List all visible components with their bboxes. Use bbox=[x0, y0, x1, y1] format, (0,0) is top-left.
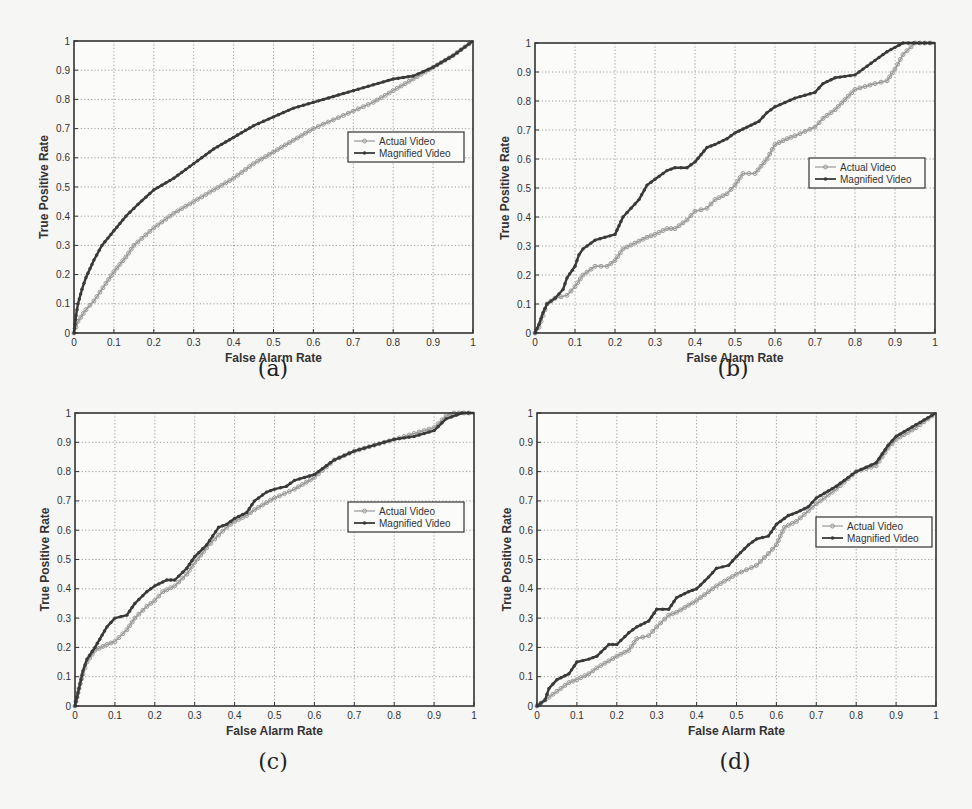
x-tick-label: 0 bbox=[534, 710, 540, 721]
legend-entry-actual-video: Actual Video bbox=[847, 521, 903, 532]
y-tick-label: 1 bbox=[527, 408, 533, 419]
y-tick-label: 0.6 bbox=[519, 525, 533, 536]
y-tick-label: 0.5 bbox=[519, 554, 533, 565]
y-tick-label: 0.9 bbox=[519, 437, 533, 448]
y-axis-label: True Positive Rate bbox=[500, 507, 514, 611]
x-tick-label: 0.7 bbox=[809, 710, 823, 721]
x-tick-label: 0.9 bbox=[889, 710, 903, 721]
x-tick-label: 0.6 bbox=[769, 710, 783, 721]
chart-plot-d: 00.10.20.30.40.50.60.70.80.9100.10.20.30… bbox=[0, 0, 972, 809]
y-tick-label: 0.3 bbox=[519, 613, 533, 624]
x-tick-label: 1 bbox=[933, 710, 939, 721]
x-tick-label: 0.5 bbox=[730, 710, 744, 721]
y-tick-label: 0.7 bbox=[519, 495, 533, 506]
y-tick-label: 0.2 bbox=[519, 642, 533, 653]
x-tick-label: 0.3 bbox=[650, 710, 664, 721]
x-tick-label: 0.2 bbox=[610, 710, 624, 721]
y-tick-label: 0.1 bbox=[519, 671, 533, 682]
x-tick-label: 0.1 bbox=[570, 710, 584, 721]
y-tick-label: 0.8 bbox=[519, 466, 533, 477]
legend: Actual VideoMagnified Video bbox=[816, 517, 932, 547]
y-tick-label: 0 bbox=[527, 701, 533, 712]
chart-panel-d: 00.10.20.30.40.50.60.70.80.9100.10.20.30… bbox=[0, 0, 972, 809]
x-tick-label: 0.8 bbox=[849, 710, 863, 721]
x-tick-label: 0.4 bbox=[690, 710, 704, 721]
subfigure-caption-d: (d) bbox=[705, 749, 765, 774]
legend-entry-magnified-video: Magnified Video bbox=[847, 533, 919, 544]
y-tick-label: 0.4 bbox=[519, 583, 533, 594]
x-axis-label: False Alarm Rate bbox=[688, 724, 785, 738]
